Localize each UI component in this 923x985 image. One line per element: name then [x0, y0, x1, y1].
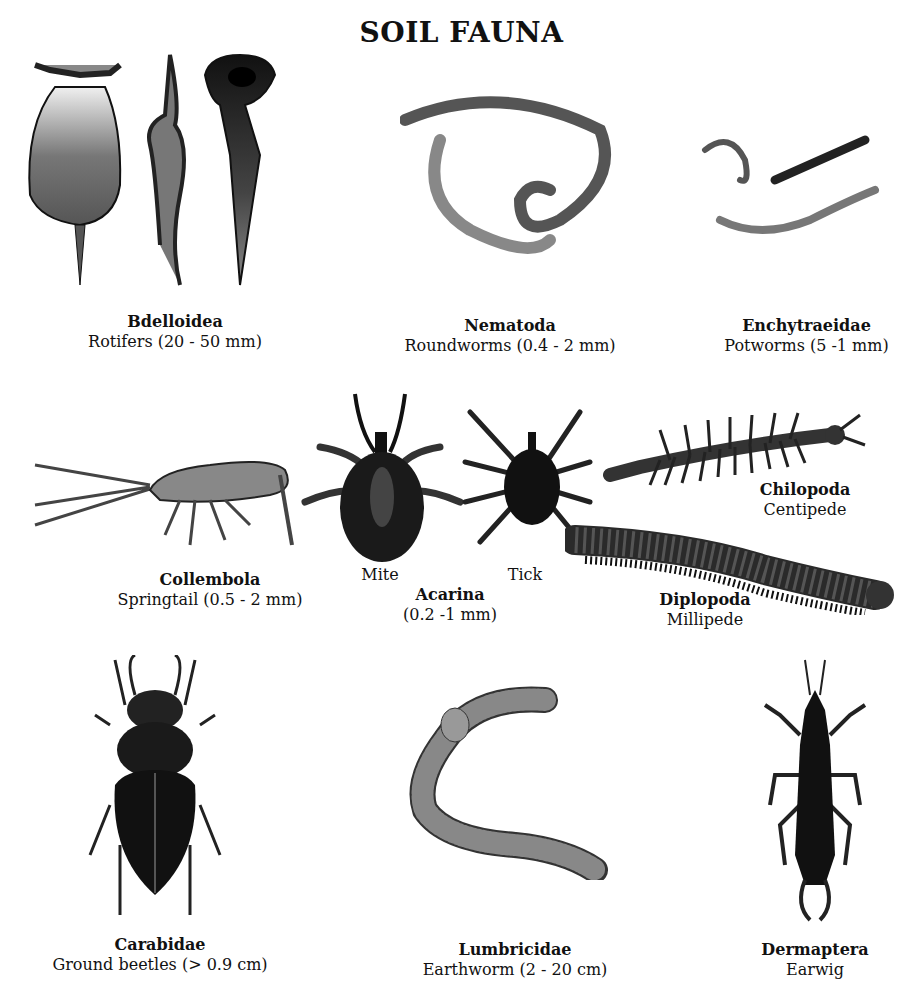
scientific-name: Lumbricidae: [400, 940, 630, 960]
earwig-illustration: [755, 655, 875, 925]
common-name: Roundworms (0.4 - 2 mm): [380, 336, 640, 356]
chilopoda-label: Chilopoda Centipede: [735, 480, 875, 520]
scientific-name: Enchytraeidae: [690, 316, 923, 336]
rotifer-illustration: [20, 45, 310, 300]
common-name: Rotifers (20 - 50 mm): [60, 332, 290, 352]
common-name: Springtail (0.5 - 2 mm): [95, 590, 325, 610]
common-name: Ground beetles (> 0.9 cm): [40, 955, 280, 975]
scientific-name: Acarina: [380, 585, 520, 605]
scientific-name: Diplopoda: [635, 590, 775, 610]
common-name: Earwig: [745, 960, 885, 980]
springtail-illustration: [30, 445, 300, 555]
enchytraeidae-label: Enchytraeidae Potworms (5 -1 mm): [690, 316, 923, 356]
mite-label: Mite: [345, 565, 415, 585]
roundworm-illustration: [400, 80, 630, 280]
collembola-label: Collembola Springtail (0.5 - 2 mm): [95, 570, 325, 610]
scientific-name: Nematoda: [380, 316, 640, 336]
carabidae-label: Carabidae Ground beetles (> 0.9 cm): [40, 935, 280, 975]
acarina-label: Acarina (0.2 -1 mm): [380, 585, 520, 625]
tick-label: Tick: [495, 565, 555, 585]
bdelloidea-label: Bdelloidea Rotifers (20 - 50 mm): [60, 312, 290, 352]
earthworm-illustration: [395, 680, 635, 880]
scientific-name: Carabidae: [40, 935, 280, 955]
potworm-illustration: [700, 130, 910, 250]
common-name: Earthworm (2 - 20 cm): [400, 960, 630, 980]
common-name: (0.2 -1 mm): [380, 605, 520, 625]
scientific-name: Bdelloidea: [60, 312, 290, 332]
common-name: Millipede: [635, 610, 775, 630]
diplopoda-label: Diplopoda Millipede: [635, 590, 775, 630]
scientific-name: Dermaptera: [745, 940, 885, 960]
common-name: Potworms (5 -1 mm): [690, 336, 923, 356]
ground-beetle-illustration: [85, 655, 225, 925]
scientific-name: Collembola: [95, 570, 325, 590]
nematoda-label: Nematoda Roundworms (0.4 - 2 mm): [380, 316, 640, 356]
dermaptera-label: Dermaptera Earwig: [745, 940, 885, 980]
lumbricidae-label: Lumbricidae Earthworm (2 - 20 cm): [400, 940, 630, 980]
scientific-name: Chilopoda: [735, 480, 875, 500]
mite-tick-illustration: [300, 392, 600, 562]
